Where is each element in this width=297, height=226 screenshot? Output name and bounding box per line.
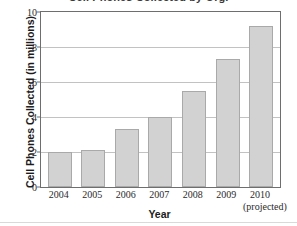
bar [148,117,172,187]
x-axis-tick-year: 2010 [250,189,270,200]
x-axis-tick-year: 2006 [116,189,136,200]
x-axis-tick-year: 2009 [216,189,236,200]
bar [48,152,72,187]
plot-area: 0246810 [40,11,281,188]
x-axis-tick-year: 2007 [149,189,169,200]
bar-chart-figure: Cell Phones Collected by Org. Cell Phone… [0,0,297,226]
x-axis-title: Year [40,208,279,220]
y-axis-tick-label: 10 [27,7,37,18]
bar [216,59,240,187]
bar [81,150,105,187]
x-axis-tick-year: 2004 [49,189,69,200]
bar-series [41,12,280,187]
x-axis-tick-year: 2005 [82,189,102,200]
bottom-divider [0,222,297,223]
x-axis-tick-year: 2008 [183,189,203,200]
bar [249,26,273,187]
bar [182,91,206,187]
chart-title-cropped: Cell Phones Collected by Org. [0,0,297,3]
y-axis-title: Cell Phones Collected (in millions) [24,9,36,195]
bar [115,129,139,187]
